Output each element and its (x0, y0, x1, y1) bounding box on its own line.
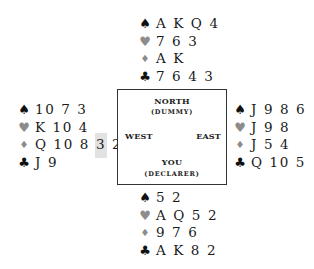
spade-icon: ♠ (138, 189, 152, 207)
east-spades-cards: J 9 8 6 (251, 101, 306, 119)
table-diagram: NORTH (DUMMY) WEST EAST YOU (DECLARER) (117, 89, 227, 185)
declarer-label: (DECLARER) (118, 170, 226, 178)
club-icon: ♣ (138, 242, 152, 260)
south-diamonds-cards: 9 7 6 (156, 224, 198, 242)
spade-icon: ♠ (17, 101, 31, 119)
club-icon: ♣ (233, 154, 247, 172)
west-spades-cards: 10 7 3 (35, 101, 88, 119)
heart-icon: ♥ (138, 207, 152, 225)
dummy-label: (DUMMY) (118, 108, 226, 116)
west-clubs-cards: J 9 (35, 154, 58, 172)
heart-icon: ♥ (233, 119, 247, 137)
east-clubs-cards: Q 10 5 (251, 154, 306, 172)
west-hearts-cards: K 10 4 (35, 119, 89, 137)
club-icon: ♣ (17, 154, 31, 172)
east-label: EAST (196, 131, 221, 141)
club-icon: ♣ (138, 68, 152, 86)
north-hearts-cards: 7 6 3 (156, 33, 198, 51)
diamond-icon: ♦ (138, 224, 152, 242)
west-diamonds-before: Q 10 8 (35, 136, 96, 152)
south-clubs-cards: A K 8 2 (156, 242, 217, 260)
south-label: YOU (118, 157, 226, 167)
north-clubs-cards: 7 6 4 3 (156, 68, 214, 86)
east-hearts-cards: J 9 8 (251, 119, 290, 137)
diamond-icon: ♦ (138, 50, 152, 68)
spade-icon: ♠ (233, 101, 247, 119)
west-label: WEST (125, 131, 153, 141)
west-diamonds-cards: Q 10 8 3 2 (35, 136, 122, 154)
diamond-icon: ♦ (233, 136, 247, 154)
north-label: NORTH (118, 96, 226, 106)
heart-icon: ♥ (17, 119, 31, 137)
south-spades-cards: 5 2 (156, 189, 182, 207)
east-diamonds-cards: J 5 4 (251, 136, 290, 154)
south-hearts-cards: A Q 5 2 (156, 207, 218, 225)
north-spades-cards: A K Q 4 (156, 15, 220, 33)
diamond-icon: ♦ (17, 136, 31, 154)
heart-icon: ♥ (138, 33, 152, 51)
spade-icon: ♠ (138, 15, 152, 33)
north-diamonds-cards: A K (156, 50, 185, 68)
